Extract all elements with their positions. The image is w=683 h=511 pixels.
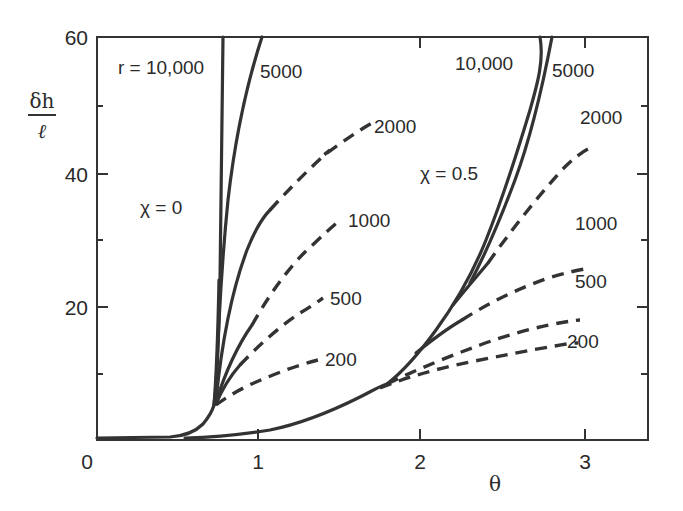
- curve-chi0-r1000-dashed: [252, 222, 338, 325]
- curve-chi0-base: [97, 405, 214, 438]
- y-axis-title-numerator: δh: [30, 89, 55, 113]
- label-chi0-r500: 500: [330, 288, 362, 309]
- label-chi0-r5000: 5000: [260, 61, 302, 82]
- label-chi0-r1000: 1000: [348, 210, 390, 231]
- label-chi0-r2000: 2000: [374, 116, 416, 137]
- x-tick-1: 1: [252, 450, 264, 473]
- y-tick-40: 40: [65, 163, 88, 186]
- curve-chi05-r1000-dashed: [462, 269, 585, 320]
- x-axis-ticks-bottom: [258, 429, 585, 440]
- curve-chi05-r2000-dashed: [488, 148, 590, 263]
- curve-chi0-r200-dashed: [216, 360, 318, 405]
- x-axis-title: θ: [489, 472, 501, 496]
- y-axis-ticks-left: [97, 106, 108, 374]
- x-tick-0: 0: [81, 450, 93, 473]
- label-chi05: χ = 0.5: [420, 163, 478, 184]
- label-chi0-r200: 200: [325, 349, 357, 370]
- label-chi05-r500: 500: [575, 271, 607, 292]
- label-chi0-r10000: r = 10,000: [118, 57, 204, 78]
- chart-canvas: 60 40 20 0 1 2 3 δh ℓ θ: [0, 0, 683, 511]
- label-chi05-r200: 200: [567, 331, 599, 352]
- x-tick-2: 2: [414, 450, 426, 473]
- y-tick-20: 20: [65, 296, 88, 319]
- label-chi05-r2000: 2000: [580, 107, 622, 128]
- plot-frame: [97, 37, 648, 440]
- curve-chi0-r2000-dashed: [270, 123, 372, 210]
- y-axis-ticks-right: [637, 106, 648, 374]
- x-tick-3: 3: [579, 450, 591, 473]
- chi-0-curves: [97, 37, 372, 438]
- label-chi0: χ = 0: [140, 197, 182, 218]
- curve-chi05-r200-dashed: [380, 343, 578, 388]
- label-chi05-r5000: 5000: [552, 60, 594, 81]
- label-chi05-r1000: 1000: [575, 213, 617, 234]
- label-chi05-r10000: 10,000: [455, 53, 513, 74]
- y-tick-60: 60: [65, 26, 88, 49]
- curve-chi0-r500-dashed: [240, 298, 323, 365]
- curve-chi05-r2000-solid: [453, 263, 488, 305]
- y-axis-title-denominator: ℓ: [38, 119, 47, 143]
- x-axis-ticks-top: [420, 37, 585, 48]
